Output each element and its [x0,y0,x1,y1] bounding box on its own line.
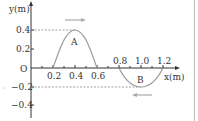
y-tick-label: 0.2 [16,44,30,54]
x-tick-label: 1.0 [135,56,150,66]
x-axis-label: x(m) [164,72,185,82]
pulse-a-label: A [70,37,78,47]
y-tick-label: −0.4 [11,100,33,110]
stray-mark [3,87,4,88]
y-axis-label: y(m) [8,4,30,14]
x-tick-label: 0.6 [91,71,106,81]
y-tick-label: 0.4 [16,25,31,35]
y-tick-label: −0.2 [11,82,33,92]
x-axis-arrow-icon [175,66,180,70]
pulse-a-curve [53,30,97,68]
x-tick-label: 0.8 [113,56,128,66]
x-tick-label: 0.2 [47,71,61,81]
arrow-right-icon [81,18,86,22]
wave-diagram: y(m) x(m) O 0.4 0.2 −0.2 −0.4 0.2 0.4 0.… [0,0,198,121]
origin-label: O [20,64,27,74]
x-tick-label: 1.2 [157,56,171,66]
arrow-left-icon [132,93,137,97]
x-tick-label: 0.4 [69,71,84,81]
pulse-b-label: B [137,75,144,85]
